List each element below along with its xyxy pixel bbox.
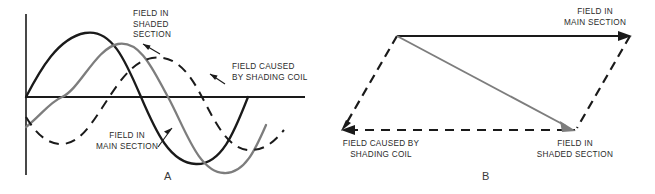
- label-shading-coil-b: FIELD CAUSED BY SHADING COIL: [331, 139, 431, 160]
- vector-field-caused-by-shading-coil: [346, 36, 397, 124]
- label-main-section-a: FIELD IN MAIN SECTION: [95, 131, 159, 152]
- leader-main-section-arrowhead: [164, 128, 172, 134]
- diagram-svg: [0, 0, 655, 194]
- vector-resultant: [397, 36, 566, 126]
- vector-resultant-arrowhead: [560, 121, 576, 132]
- parallelogram-right-side: [577, 36, 630, 128]
- label-shaded-section-a: FIELD IN SHADED SECTION: [133, 9, 199, 41]
- panel-a-letter: A: [164, 170, 172, 182]
- figure-root: FIELD IN SHADED SECTION FIELD CAUSED BY …: [0, 0, 655, 194]
- panel-b-letter: B: [482, 170, 490, 182]
- panel-b-group: [341, 31, 632, 135]
- label-main-section-b: FIELD IN MAIN SECTION: [545, 7, 645, 28]
- leader-shaded-section-arrowhead: [143, 44, 151, 50]
- leader-shading-coil-arrowhead: [210, 74, 218, 80]
- label-shading-coil-a: FIELD CAUSED BY SHADING COIL: [232, 62, 324, 83]
- label-shaded-section-b: FIELD IN SHADED SECTION: [524, 139, 626, 160]
